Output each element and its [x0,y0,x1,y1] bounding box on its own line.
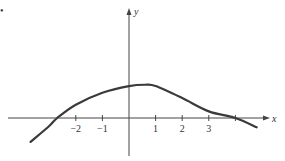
function-curve [31,85,257,142]
x-tick-label: 1 [153,123,158,134]
y-axis-label: y [133,6,139,17]
x-axis-arrow-icon [263,116,270,121]
y-axis-arrow-icon [127,8,132,15]
x-axis-label: x [271,113,277,124]
figure-marker: • [0,5,4,16]
x-tick-label: −2 [70,123,81,134]
function-graph: • x y −2−1123 [0,0,285,161]
x-tick-label: −1 [97,123,108,134]
y-axis: y [127,6,140,156]
x-tick-label: 3 [206,123,211,134]
x-tick-label: 2 [180,123,185,134]
